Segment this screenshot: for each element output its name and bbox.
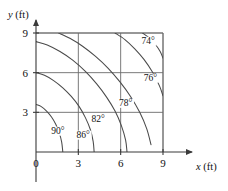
contour-label-86: 86° [77, 130, 91, 140]
x-tick-label: 9 [160, 157, 166, 169]
contour-label-82: 82° [91, 114, 105, 124]
y-tick-label: 6 [23, 67, 29, 79]
y-axis-title-unit: (ft) [13, 9, 30, 21]
y-tick-label: 3 [23, 106, 29, 118]
x-axis-title: x (ft) [195, 161, 217, 173]
axes [36, 20, 192, 182]
x-tick-label: 0 [33, 157, 39, 169]
axis-tick-labels: 0369369 [23, 27, 167, 169]
x-tick-label: 3 [76, 157, 82, 169]
contour-plot-svg: 0369369 90°86°82°78°76°74° x (ft) y (ft) [0, 0, 228, 191]
y-axis-title: y (ft) [7, 9, 29, 21]
contour-line-78 [59, 33, 151, 145]
axis-ticks [33, 33, 163, 155]
contour-labels: 90°86°82°78°76°74° [50, 36, 159, 140]
contour-label-76: 76° [144, 73, 158, 83]
y-tick-label: 9 [23, 27, 29, 39]
contour-label-74: 74° [142, 36, 156, 46]
contour-label-78: 78° [119, 98, 133, 108]
x-axis-title-unit: (ft) [201, 161, 218, 173]
x-tick-label: 6 [118, 157, 124, 169]
contour-plot-figure: 0369369 90°86°82°78°76°74° x (ft) y (ft) [0, 0, 228, 191]
contour-label-90: 90° [51, 126, 65, 136]
